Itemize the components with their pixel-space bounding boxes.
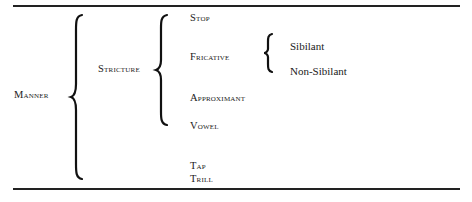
brace-manner-icon: [70, 14, 84, 180]
node-approximant: Approximant: [190, 92, 245, 104]
node-manner: Manner: [14, 89, 49, 101]
node-sibilant: Sibilant: [290, 40, 324, 52]
top-rule: [13, 5, 460, 7]
bottom-rule: [13, 188, 460, 190]
node-fricative: Fricative: [190, 51, 230, 63]
node-vowel: Vowel: [190, 120, 219, 132]
brace-fricative-icon: [263, 33, 273, 73]
node-trill: Trill: [190, 173, 213, 185]
node-stricture: Stricture: [98, 63, 140, 75]
node-non-sibilant: Non-Sibilant: [290, 65, 347, 77]
node-stop: Stop: [190, 12, 210, 24]
node-tap: Tap: [190, 160, 206, 172]
brace-stricture-icon: [155, 14, 169, 126]
